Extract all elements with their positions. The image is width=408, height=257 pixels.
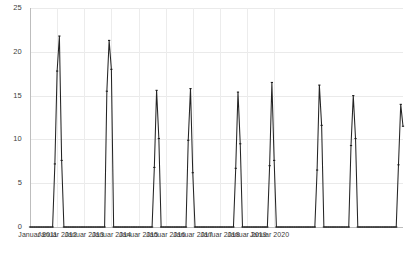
data-point-marker — [368, 226, 370, 227]
data-point-marker — [296, 226, 298, 227]
data-point-marker — [382, 226, 384, 227]
data-point-marker — [241, 226, 243, 227]
data-point-marker — [131, 226, 133, 227]
y-axis-tick-label: 20 — [0, 47, 22, 56]
data-point-marker — [352, 95, 354, 96]
data-point-marker — [309, 226, 311, 227]
plot-area — [30, 8, 403, 227]
data-point-marker — [90, 226, 92, 227]
data-point-marker — [176, 226, 178, 227]
data-point-marker — [52, 226, 54, 227]
data-point-marker — [155, 90, 157, 91]
data-point-marker — [253, 226, 255, 227]
data-series-line — [30, 8, 403, 227]
data-point-marker — [187, 140, 189, 141]
data-point-marker — [239, 143, 241, 144]
data-point-marker — [348, 226, 350, 227]
data-point-marker — [321, 125, 323, 126]
data-point-marker — [388, 226, 390, 227]
y-axis-tick-label: 0 — [0, 222, 22, 231]
data-point-marker — [153, 167, 155, 168]
data-point-marker — [278, 226, 280, 227]
data-point-marker — [83, 226, 85, 227]
data-point-marker — [316, 170, 318, 171]
data-point-marker — [174, 226, 176, 227]
data-point-marker — [151, 226, 153, 227]
data-point-marker — [302, 226, 304, 227]
series-polyline — [30, 36, 403, 227]
data-point-marker — [336, 226, 338, 227]
data-point-marker — [359, 226, 361, 227]
data-point-marker — [122, 226, 124, 227]
data-point-marker — [219, 226, 221, 227]
y-axis-tick-label: 25 — [0, 3, 22, 12]
data-point-marker — [94, 226, 96, 227]
data-point-marker — [101, 226, 103, 227]
data-point-marker — [334, 226, 336, 227]
data-point-marker — [262, 226, 264, 227]
data-point-marker — [192, 172, 194, 173]
data-point-marker — [325, 226, 327, 227]
data-point-marker — [289, 226, 291, 227]
data-point-marker — [354, 138, 356, 139]
y-axis-tick-label: 5 — [0, 178, 22, 187]
data-point-marker — [36, 226, 38, 227]
data-point-marker — [273, 160, 275, 161]
data-point-marker — [185, 226, 187, 227]
data-point-marker — [207, 226, 209, 227]
data-point-marker — [330, 226, 332, 227]
data-point-marker — [350, 145, 352, 146]
data-point-marker — [332, 226, 334, 227]
data-point-marker — [232, 226, 234, 227]
data-point-marker — [300, 226, 302, 227]
data-point-marker — [49, 226, 51, 227]
data-point-marker — [287, 226, 289, 227]
data-point-marker — [212, 226, 214, 227]
data-point-marker — [379, 226, 381, 227]
data-point-marker — [61, 160, 63, 161]
data-point-marker — [259, 226, 261, 227]
data-point-marker — [74, 226, 76, 227]
data-point-marker — [70, 226, 72, 227]
data-point-marker — [104, 226, 106, 227]
data-point-marker — [223, 226, 225, 227]
data-point-marker — [167, 226, 169, 227]
data-point-marker — [363, 226, 365, 227]
data-point-marker — [198, 226, 200, 227]
data-point-marker — [45, 226, 47, 227]
data-point-marker — [162, 226, 164, 227]
data-point-marker — [113, 226, 115, 227]
data-point-marker — [108, 40, 110, 41]
data-point-marker — [135, 226, 137, 227]
data-point-marker — [124, 226, 126, 227]
data-point-marker — [189, 88, 191, 89]
data-point-marker — [137, 226, 139, 227]
data-point-marker — [183, 226, 185, 227]
data-point-marker — [92, 226, 94, 227]
data-point-marker — [210, 226, 212, 227]
data-point-marker — [180, 226, 182, 227]
data-point-marker — [196, 226, 198, 227]
data-point-marker — [395, 226, 397, 227]
data-point-marker — [201, 226, 203, 227]
data-point-marker — [128, 226, 130, 227]
data-point-marker — [226, 226, 228, 227]
data-point-marker — [54, 163, 56, 164]
data-point-marker — [72, 226, 74, 227]
data-point-marker — [76, 226, 78, 227]
data-point-marker — [250, 226, 252, 227]
data-point-marker — [318, 85, 320, 86]
data-point-marker — [217, 226, 219, 227]
y-axis-labels: 0510152025 — [0, 8, 26, 227]
data-point-marker — [221, 226, 223, 227]
data-point-marker — [65, 226, 67, 227]
data-point-marker — [345, 226, 347, 227]
data-point-marker — [149, 226, 151, 227]
data-point-marker — [110, 69, 112, 70]
data-point-marker — [235, 168, 237, 169]
data-point-marker — [366, 226, 368, 227]
x-axis-labels: Januar 2011Januar 2012Januar 2013Januar … — [30, 231, 403, 251]
data-point-marker — [140, 226, 142, 227]
data-point-marker — [298, 226, 300, 227]
y-axis-tick-label: 15 — [0, 91, 22, 100]
